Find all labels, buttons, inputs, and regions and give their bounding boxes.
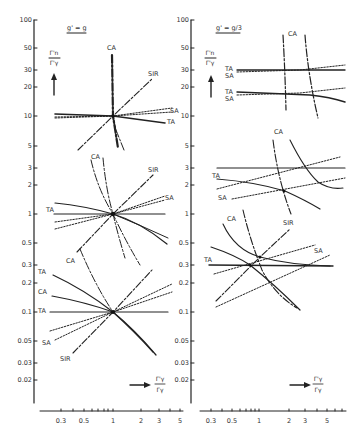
left-xtick: 0.3 bbox=[56, 417, 66, 425]
left-ytick: 0.5 bbox=[22, 239, 32, 247]
ca-line bbox=[91, 160, 140, 265]
left-ytick: 100 bbox=[20, 16, 32, 24]
right-ytick: 3 bbox=[185, 164, 189, 172]
sa-line bbox=[214, 245, 315, 274]
left-ytick: 30 bbox=[24, 66, 32, 74]
right-xtick: 0.3 bbox=[206, 417, 216, 425]
left-panel-title: g' = g bbox=[67, 24, 87, 32]
left-ytick: 2 bbox=[28, 181, 32, 189]
label-ca: CA bbox=[227, 215, 237, 223]
label-ca: CA bbox=[274, 128, 284, 136]
sa-line-2 bbox=[216, 255, 330, 307]
left-ytick: 0.02 bbox=[18, 376, 32, 384]
label-ta: TA bbox=[45, 206, 54, 214]
right-ytick: 20 bbox=[181, 83, 189, 91]
label-sir: SIR bbox=[148, 70, 159, 78]
left-group-1 bbox=[54, 158, 168, 265]
ta-line-2 bbox=[113, 214, 168, 238]
ta-line bbox=[55, 203, 167, 244]
label-ca: CA bbox=[288, 30, 298, 38]
sa-line bbox=[50, 284, 172, 331]
left-ylabel-den: Γ'γ bbox=[50, 59, 59, 67]
left-ylabel-num: Γ'n bbox=[50, 49, 59, 56]
right-ytick: 0.3 bbox=[179, 261, 189, 269]
label-sa: SA bbox=[225, 95, 234, 103]
label-sa: SA bbox=[314, 247, 323, 255]
label-ta: TA bbox=[211, 172, 220, 180]
label-ca: CA bbox=[107, 44, 117, 52]
label-sa: SA bbox=[225, 72, 234, 80]
label-ta: TA bbox=[37, 307, 46, 315]
left-ytick: 50 bbox=[24, 44, 32, 52]
left-ytick: 1 bbox=[28, 210, 32, 218]
left-ytick: 0.05 bbox=[18, 337, 32, 345]
right-group-30 bbox=[237, 35, 345, 118]
right-group-3 bbox=[217, 140, 345, 214]
ta-line-upper bbox=[53, 275, 153, 352]
right-group-18 bbox=[237, 88, 345, 102]
sa-line-2 bbox=[55, 292, 172, 340]
label-ta: TA bbox=[166, 118, 175, 126]
right-ytick: 10 bbox=[181, 112, 189, 120]
left-ytick: 3 bbox=[28, 164, 32, 172]
ca-line-2 bbox=[290, 140, 343, 188]
right-ytick: 0.1 bbox=[179, 308, 189, 316]
right-ytick: 0.02 bbox=[175, 376, 189, 384]
label-ca: CA bbox=[38, 288, 48, 296]
label-sa: SA bbox=[170, 107, 179, 115]
right-ytick: 100 bbox=[177, 16, 189, 24]
left-xtick: 2 bbox=[139, 417, 143, 425]
right-ytick: 5 bbox=[185, 142, 189, 150]
ca-line-2 bbox=[103, 158, 125, 258]
label-sir: SIR bbox=[60, 355, 71, 363]
right-ylabel-num: Γ'n bbox=[206, 49, 215, 56]
figure: 100 50 30 20 10 5 3 2 1 0.5 0.3 0.2 0.1 … bbox=[0, 0, 360, 437]
left-ytick: 0.03 bbox=[18, 359, 32, 367]
ca-line-dash bbox=[80, 249, 113, 312]
right-ytick: 2 bbox=[185, 181, 189, 189]
right-xtick: 1 bbox=[257, 417, 261, 425]
left-ytick: 0.3 bbox=[22, 261, 32, 269]
right-xtick: 2 bbox=[287, 417, 291, 425]
right-xtick: 0.5 bbox=[227, 417, 237, 425]
left-ytick: 5 bbox=[28, 142, 32, 150]
right-panel-title: g' = g/3 bbox=[216, 24, 242, 32]
right-ytick: 0.03 bbox=[175, 359, 189, 367]
label-ca: CA bbox=[91, 153, 101, 161]
left-xtick: 5 bbox=[178, 417, 182, 425]
left-ytick: 0.2 bbox=[22, 279, 32, 287]
right-ylabel-den: Γ'γ bbox=[206, 59, 215, 67]
ca-line bbox=[223, 224, 330, 266]
left-xtick: 0.5 bbox=[79, 417, 89, 425]
label-sa: SA bbox=[165, 194, 174, 202]
right-xtick: 3 bbox=[303, 417, 307, 425]
left-ytick: 10 bbox=[24, 112, 32, 120]
right-ytick: 0.2 bbox=[179, 279, 189, 287]
label-ta: TA bbox=[203, 256, 212, 264]
ca-line-2 bbox=[305, 35, 318, 118]
label-sir: SIR bbox=[283, 219, 294, 227]
right-group-0.3 bbox=[209, 210, 333, 310]
right-xlabel-num: Γ'γ bbox=[314, 375, 323, 383]
ca-line bbox=[283, 35, 286, 110]
right-ytick: 30 bbox=[181, 66, 189, 74]
left-ytick: 20 bbox=[24, 83, 32, 91]
right-ytick: 50 bbox=[181, 44, 189, 52]
left-xlabel-num: Γ'γ bbox=[156, 375, 165, 383]
right-xtick: 5 bbox=[325, 417, 329, 425]
left-xtick: 1 bbox=[111, 417, 115, 425]
right-ytick: 0.05 bbox=[175, 337, 189, 345]
label-ca: CA bbox=[66, 257, 76, 265]
label-ta: TA bbox=[37, 268, 46, 276]
left-xlabel-den: Γγ bbox=[157, 386, 164, 394]
label-sa: SA bbox=[218, 194, 227, 202]
label-sir: SIR bbox=[148, 166, 159, 174]
right-xlabel-den: Γγ bbox=[315, 386, 322, 394]
sa-line bbox=[237, 65, 345, 72]
left-xtick: 3 bbox=[157, 417, 161, 425]
ca-line bbox=[273, 140, 291, 214]
left-ytick: 0.1 bbox=[22, 308, 32, 316]
label-sa: SA bbox=[42, 339, 51, 347]
right-ytick: 1 bbox=[185, 210, 189, 218]
ta-line bbox=[217, 179, 320, 209]
